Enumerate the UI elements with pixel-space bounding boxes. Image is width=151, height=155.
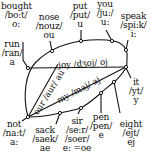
vowel-text: a: (0, 138, 28, 147)
label-put: put /put/ u (66, 2, 94, 29)
node-sack (58, 111, 61, 114)
vowel-diagram: bought /bo:t/ o: nose /nouz/ ou put /put… (0, 0, 151, 155)
vowel-text: u (66, 20, 94, 29)
vowel-text: ae (29, 144, 61, 153)
leader-eight (114, 82, 120, 113)
label-you: you /ju:/ u: (91, 0, 119, 27)
node-put (79, 39, 82, 42)
label-not: not /na:t/ a: (0, 120, 28, 147)
vowel-text: ou (34, 31, 64, 40)
node-you (110, 39, 113, 42)
label-eight: eight /ejt/ ej (114, 120, 148, 147)
label-it: it /yt/ y (124, 78, 148, 105)
leader-it (126, 68, 131, 78)
node-nose (50, 49, 53, 52)
vowel-text: y (124, 96, 148, 105)
node-eight (112, 80, 115, 83)
node-speak (124, 48, 127, 51)
label-run: run /ran/ a (0, 40, 24, 67)
label-speak: speak /spi:k/ i: (116, 12, 151, 39)
node-it (124, 65, 127, 68)
node-not (26, 115, 29, 118)
node-pen (99, 91, 102, 94)
label-nose: nose /nouz/ ou (34, 13, 64, 40)
vowel-text: o: (1, 20, 31, 29)
label-pen: pen /pen/ e (87, 113, 115, 140)
vowel-text: a (0, 58, 24, 67)
vowel-text: ej (114, 138, 148, 147)
vowel-text: e (87, 131, 115, 140)
vowel-text: e: =oe (60, 144, 94, 153)
node-joy (26, 66, 29, 69)
vowel-text: i: (116, 30, 151, 39)
vowel-text: u: (91, 18, 119, 27)
label-bought: bought /bo:t/ o: (1, 2, 31, 29)
label-sack: sack /saek/ ae (29, 126, 61, 153)
node-sir (79, 106, 82, 109)
